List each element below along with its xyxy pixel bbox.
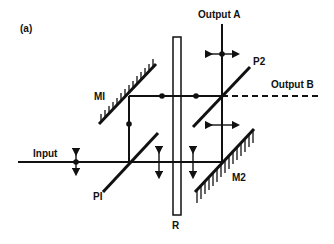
output-b-label: Output B	[271, 79, 314, 90]
mirror-2-label: M2	[232, 172, 246, 183]
polarization-dot-left	[126, 121, 132, 127]
mirror-1-label: MI	[94, 91, 105, 102]
input-label: Input	[33, 148, 58, 159]
polarization-dot-upper-1	[159, 93, 165, 99]
polarization-dot-upper-2	[193, 93, 199, 99]
rotator-label: R	[172, 220, 180, 231]
panel-label: (a)	[20, 23, 32, 34]
polarizer-2-label: P2	[253, 56, 266, 67]
polarizer-1-label: PI	[93, 191, 103, 202]
mirror-1	[99, 59, 156, 124]
rotator-plate	[173, 37, 181, 215]
mirror-2	[195, 129, 254, 203]
interferometer-diagram: (a) R Output A Output B Input MI M2 PI P…	[0, 0, 334, 244]
output-a-label: Output A	[198, 9, 240, 20]
